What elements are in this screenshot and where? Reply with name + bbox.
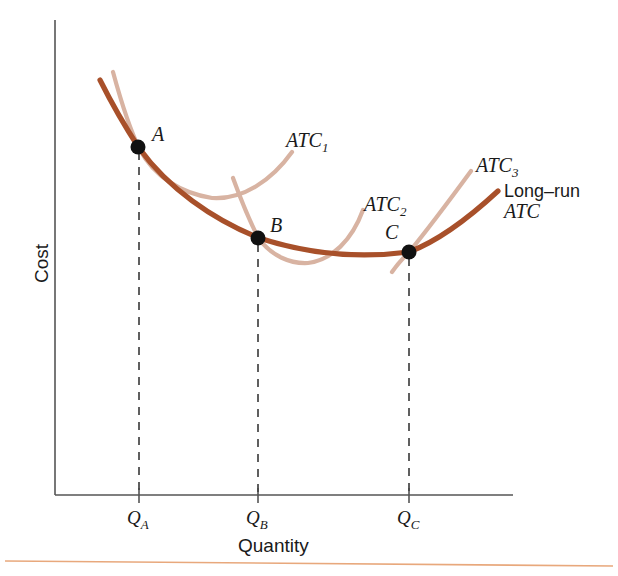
footer-rule: [5, 561, 613, 566]
x-tick-label-qc: QC: [397, 508, 419, 531]
atc3-label: ATC3: [476, 155, 518, 179]
long-run-atc-label: Long–run ATC: [504, 182, 580, 222]
x-tick-label-qc-base: Q: [397, 507, 411, 528]
x-tick-label-qb-base: Q: [246, 507, 260, 528]
y-axis-title: Cost: [32, 244, 51, 283]
long-run-atc-label-line1: Long–run: [504, 182, 580, 201]
atc2-label-sub: 2: [400, 204, 407, 219]
atc2-label-base: ATC: [364, 193, 400, 215]
chart-canvas: [0, 0, 618, 576]
point-c-marker: [402, 245, 417, 260]
x-tick-label-qa-sub: A: [141, 517, 149, 532]
x-tick-label-qb-sub: B: [260, 517, 268, 532]
short-run-atc-curves: [113, 72, 471, 272]
atc3-label-base: ATC: [476, 154, 512, 176]
x-tick-label-qa: QA: [127, 508, 149, 531]
long-run-atc-curve-group: [100, 80, 498, 255]
point-a-marker: [131, 140, 146, 155]
point-label-b: B: [270, 215, 282, 235]
point-b-marker: [251, 231, 266, 246]
long-run-atc-figure: A B C ATC1 ATC2 ATC3 Long–run ATC QA QB …: [0, 0, 618, 576]
x-axis-title: Quantity: [238, 536, 309, 555]
x-tick-label-qa-base: Q: [127, 507, 141, 528]
atc1-curve: [113, 72, 292, 198]
point-label-c: C: [385, 222, 398, 242]
atc1-label: ATC1: [286, 130, 328, 154]
x-tick-label-qc-sub: C: [411, 517, 420, 532]
atc1-label-sub: 1: [322, 140, 329, 155]
atc1-label-base: ATC: [286, 129, 322, 151]
atc3-label-sub: 3: [512, 165, 519, 180]
long-run-atc-curve: [100, 80, 498, 255]
long-run-atc-label-line2: ATC: [504, 201, 580, 222]
atc2-label: ATC2: [364, 194, 406, 218]
x-tick-label-qb: QB: [246, 508, 268, 531]
point-label-a: A: [152, 124, 164, 144]
